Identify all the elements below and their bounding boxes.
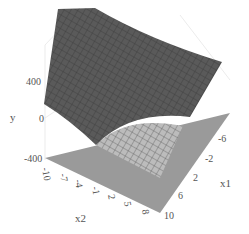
x1-tick-2: 2 (193, 172, 198, 183)
x1-tick-neg2: -2 (205, 153, 213, 164)
y-tick-0: 0 (39, 113, 44, 124)
y-tick-neg400: -400 (24, 153, 42, 164)
x2-tick-2: 2 (106, 193, 118, 200)
y-axis-label: y (10, 111, 16, 123)
x2-tick-neg1: -1 (90, 185, 102, 195)
x1-tick-neg6: -6 (218, 133, 226, 144)
y-tick-400: 400 (26, 76, 41, 87)
x2-tick-neg10: -10 (40, 166, 53, 181)
x2-tick-8: 8 (140, 208, 152, 215)
x2-tick-neg4: -4 (73, 178, 85, 188)
x1-axis-label: x1 (220, 177, 231, 189)
x2-tick-neg7: -7 (58, 172, 70, 182)
x1-tick-6: 6 (178, 190, 183, 201)
x2-axis-label: x2 (75, 212, 86, 224)
x2-tick-5: 5 (122, 200, 134, 207)
surface-plot: 400 0 -400 y -6 -2 2 6 10 x1 -10 -7 -4 -… (0, 0, 249, 234)
x1-tick-10: 10 (164, 210, 174, 221)
